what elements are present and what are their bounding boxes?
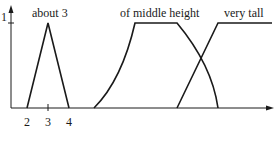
x-tick-label-3: 3 — [45, 115, 51, 129]
x-tick-label-4: 4 — [66, 115, 72, 129]
y-axis-label-one: 1 — [1, 10, 7, 24]
middle-height-label: of middle height — [120, 6, 200, 20]
middle-height-curve — [94, 23, 218, 108]
fuzzy-membership-diagram: 1 2 3 4 about 3 of middle height very ta… — [0, 0, 274, 144]
about-3-label: about 3 — [32, 6, 68, 20]
very-tall-curve — [177, 23, 272, 108]
very-tall-label: very tall — [224, 6, 264, 20]
x-tick-label-2: 2 — [24, 115, 30, 129]
about-3-curve — [27, 23, 69, 108]
y-axis — [8, 5, 14, 108]
x-axis — [11, 104, 274, 111]
